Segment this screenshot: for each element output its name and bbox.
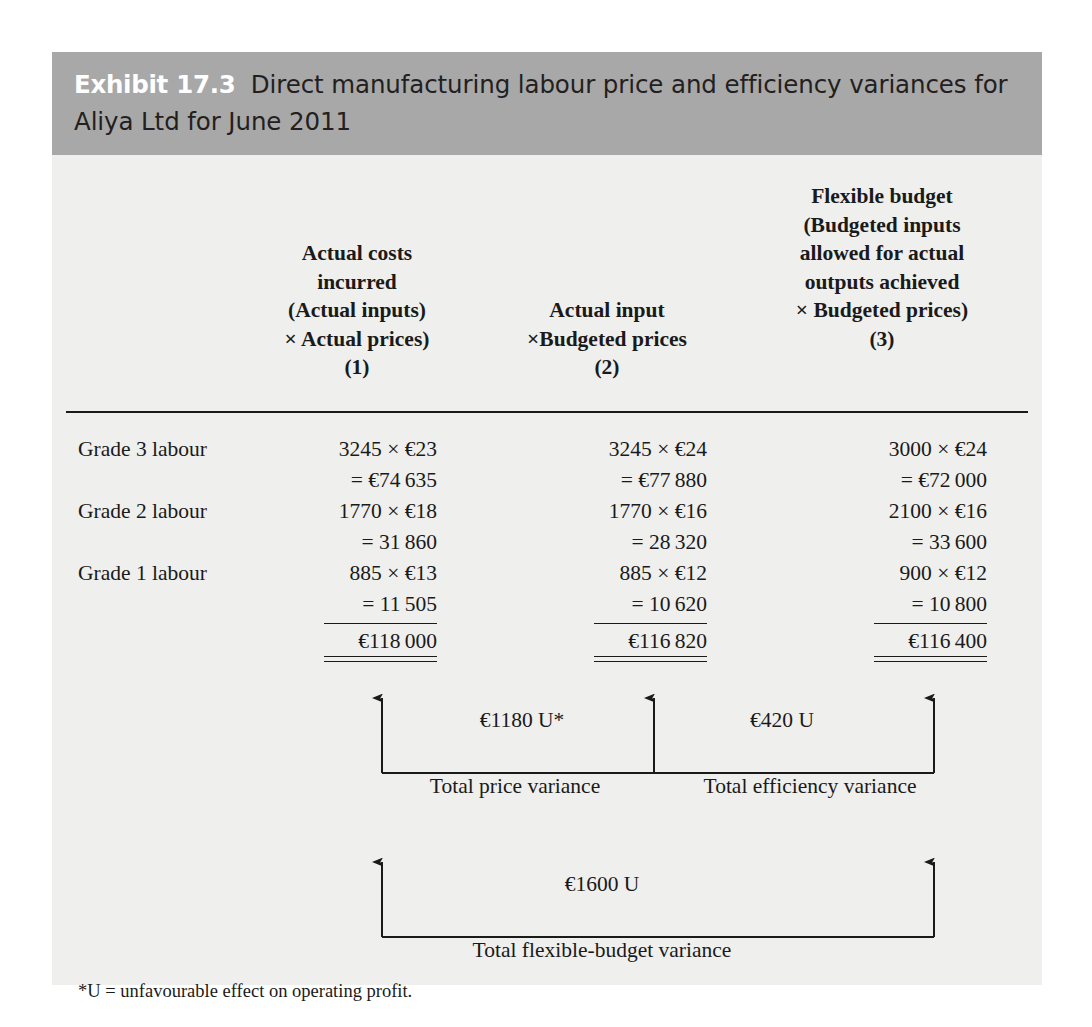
table-cell: = 10 800 bbox=[752, 592, 987, 616]
table-cell: 1770 × €18 bbox=[202, 499, 437, 523]
table-cell: = 28 320 bbox=[472, 530, 707, 554]
table-cell: 3245 × €23 bbox=[202, 437, 437, 461]
column-header-3-line-3: allowed for actual bbox=[742, 239, 1022, 268]
table-cell: = 11 505 bbox=[202, 592, 437, 616]
total-double-rule-column-1 bbox=[324, 656, 437, 662]
efficiency-variance-amount: €420 U bbox=[672, 708, 892, 732]
header-divider-rule bbox=[66, 411, 1028, 413]
exhibit-body: Actual costs incurred (Actual inputs) × … bbox=[52, 155, 1042, 985]
footnote: *U = unfavourable effect on operating pr… bbox=[78, 980, 412, 1002]
price-variance-label: Total price variance bbox=[370, 774, 660, 798]
column-header-1-line-3: (Actual inputs) bbox=[232, 296, 482, 325]
column-header-1-line-2: incurred bbox=[232, 268, 482, 297]
total-double-rule-column-3 bbox=[874, 656, 987, 662]
column-total: €116 820 bbox=[472, 629, 707, 653]
exhibit-panel: Exhibit 17.3 Direct manufacturing labour… bbox=[52, 52, 1042, 985]
table-cell: 885 × €13 bbox=[202, 561, 437, 585]
total-rule-column-2 bbox=[594, 623, 707, 624]
column-total: €118 000 bbox=[202, 629, 437, 653]
total-rule-column-3 bbox=[874, 623, 987, 624]
table-cell: = €77 880 bbox=[472, 468, 707, 492]
flexible-budget-variance-label: Total flexible-budget variance bbox=[397, 938, 807, 962]
table-cell: = 33 600 bbox=[752, 530, 987, 554]
exhibit-title-line-2: Aliya Ltd for June 2011 bbox=[74, 103, 1020, 140]
table-cell: = 31 860 bbox=[202, 530, 437, 554]
exhibit-title-line-1: Exhibit 17.3 Direct manufacturing labour… bbox=[74, 66, 1020, 103]
column-header-3-number: (3) bbox=[742, 325, 1022, 354]
table-cell: 900 × €12 bbox=[752, 561, 987, 585]
table-cell: 3245 × €24 bbox=[472, 437, 707, 461]
column-header-1: Actual costs incurred (Actual inputs) × … bbox=[232, 239, 482, 382]
column-header-3-line-4: outputs achieved bbox=[742, 268, 1022, 297]
column-header-2-line-2: ×Budgeted prices bbox=[482, 325, 732, 354]
total-double-rule-column-2 bbox=[594, 656, 707, 662]
table-cell: = €74 635 bbox=[202, 468, 437, 492]
flexible-budget-variance-amount: €1600 U bbox=[492, 872, 712, 896]
table-cell: = €72 000 bbox=[752, 468, 987, 492]
table-cell: = 10 620 bbox=[472, 592, 707, 616]
table-cell: 3000 × €24 bbox=[752, 437, 987, 461]
column-header-1-line-1: Actual costs bbox=[232, 239, 482, 268]
column-header-2: Actual input ×Budgeted prices (2) bbox=[482, 296, 732, 382]
total-rule-column-1 bbox=[324, 623, 437, 624]
column-header-3: Flexible budget (Budgeted inputs allowed… bbox=[742, 182, 1022, 353]
column-header-1-line-4: × Actual prices) bbox=[232, 325, 482, 354]
exhibit-title-text-1: Direct manufacturing labour price and ef… bbox=[251, 70, 1008, 99]
column-header-2-number: (2) bbox=[482, 353, 732, 382]
column-header-3-line-1: Flexible budget bbox=[742, 182, 1022, 211]
column-header-3-line-2: (Budgeted inputs bbox=[742, 211, 1022, 240]
table-cell: 2100 × €16 bbox=[752, 499, 987, 523]
column-header-2-line-1: Actual input bbox=[482, 296, 732, 325]
efficiency-variance-label: Total efficiency variance bbox=[650, 774, 970, 798]
column-header-3-line-5: × Budgeted prices) bbox=[742, 296, 1022, 325]
column-total: €116 400 bbox=[752, 629, 987, 653]
table-cell: 1770 × €16 bbox=[472, 499, 707, 523]
exhibit-header-band: Exhibit 17.3 Direct manufacturing labour… bbox=[52, 52, 1042, 155]
exhibit-number: Exhibit 17.3 bbox=[74, 70, 235, 99]
price-variance-amount: €1180 U* bbox=[412, 708, 632, 732]
table-cell: 885 × €12 bbox=[472, 561, 707, 585]
column-header-1-number: (1) bbox=[232, 353, 482, 382]
